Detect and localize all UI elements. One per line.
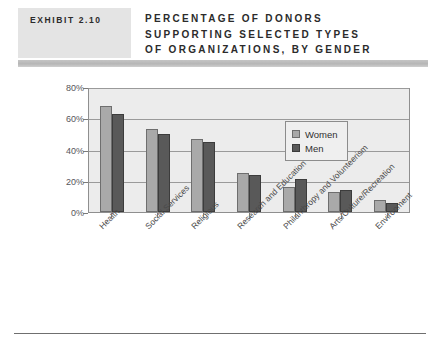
- y-tick-label-20: 20%: [66, 177, 84, 187]
- x-tick-mark: [111, 213, 112, 218]
- title-line-1: PERCENTAGE OF DONORS: [145, 11, 425, 27]
- x-tick-mark: [203, 213, 204, 218]
- footer-divider: [14, 333, 426, 334]
- bar-women: [283, 187, 295, 212]
- chart-legend: Women Men: [285, 121, 348, 161]
- x-tick-mark: [387, 213, 388, 218]
- x-tick-mark: [295, 213, 296, 218]
- x-tick-mark: [157, 213, 158, 218]
- legend-swatch-women-icon: [292, 130, 300, 138]
- bar-chart: 0%20%40%60%80% Women Men HealthSocial Se…: [20, 78, 420, 298]
- bar-men: [112, 114, 124, 212]
- title-line-3: OF ORGANIZATIONS, BY GENDER: [145, 42, 425, 58]
- bar-women: [374, 200, 386, 213]
- legend-item-women: Women: [292, 127, 338, 141]
- y-tick-label-80: 80%: [66, 83, 84, 93]
- legend-swatch-men-icon: [292, 144, 300, 152]
- bar-women: [146, 129, 158, 212]
- header-divider-band: [18, 60, 428, 67]
- y-tick-label-60: 60%: [66, 114, 84, 124]
- exhibit-header: EXHIBIT 2.10 PERCENTAGE OF DONORS SUPPOR…: [0, 0, 438, 58]
- x-axis-labels: HealthSocial ServicesReligiousResearch a…: [88, 218, 410, 298]
- legend-label-men: Men: [305, 143, 323, 154]
- y-tick-mark-0: [83, 213, 88, 214]
- exhibit-number-label: EXHIBIT 2.10: [30, 15, 102, 25]
- legend-item-men: Men: [292, 141, 338, 155]
- bar-women: [191, 139, 203, 212]
- title-line-2: SUPPORTING SELECTED TYPES: [145, 27, 425, 43]
- exhibit-title: PERCENTAGE OF DONORS SUPPORTING SELECTED…: [145, 11, 425, 58]
- x-tick-mark: [341, 213, 342, 218]
- bar-women: [328, 192, 340, 212]
- x-tick-mark: [249, 213, 250, 218]
- y-tick-label-40: 40%: [66, 146, 84, 156]
- bar-women: [237, 173, 249, 212]
- bar-group: [89, 89, 135, 212]
- legend-label-women: Women: [305, 129, 338, 140]
- bar-women: [100, 106, 112, 212]
